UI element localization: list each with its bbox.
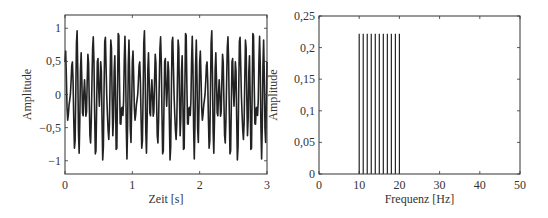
y-axis-label: Amplitude <box>20 69 34 120</box>
y-tick-label: 0,5 <box>46 54 61 68</box>
y-tick-label: 1 <box>55 21 61 35</box>
x-tick-label: 0 <box>62 178 68 192</box>
figure: 0123−1−0,500,51 Zeit [s] Amplitude 01020… <box>0 0 548 218</box>
y-tick-label: 0 <box>309 167 315 181</box>
x-tick-label: 2 <box>197 178 203 192</box>
spectrum-plot: 0102030405000,050,10,150,20,25 Frequenz … <box>266 9 526 206</box>
y-tick-label: 0,15 <box>294 72 315 86</box>
x-axis-label: Zeit [s] <box>149 192 184 206</box>
y-tick-label: 0 <box>55 88 61 102</box>
time-signal-plot: 0123−1−0,500,51 Zeit [s] Amplitude <box>20 15 270 206</box>
y-tick-label: −0,5 <box>39 121 61 135</box>
axis-ticks: 0102030405000,050,10,150,20,25 <box>294 9 526 192</box>
y-tick-label: 0,2 <box>300 41 315 55</box>
y-tick-label: 0,1 <box>300 104 315 118</box>
x-tick-label: 1 <box>129 178 135 192</box>
x-tick-label: 40 <box>474 178 486 192</box>
x-axis-label: Frequenz [Hz] <box>385 192 455 206</box>
signal-line <box>65 31 267 160</box>
y-tick-label: −1 <box>48 154 61 168</box>
x-tick-label: 50 <box>514 178 526 192</box>
x-tick-label: 30 <box>434 178 446 192</box>
spectrum-lines <box>359 34 399 174</box>
x-tick-label: 10 <box>353 178 365 192</box>
y-tick-label: 0,05 <box>294 135 315 149</box>
x-tick-label: 0 <box>316 178 322 192</box>
plot-frame <box>319 16 520 174</box>
x-tick-label: 3 <box>264 178 270 192</box>
y-axis-label: Amplitude <box>266 69 280 120</box>
y-tick-label: 0,25 <box>294 9 315 23</box>
x-tick-label: 20 <box>393 178 405 192</box>
